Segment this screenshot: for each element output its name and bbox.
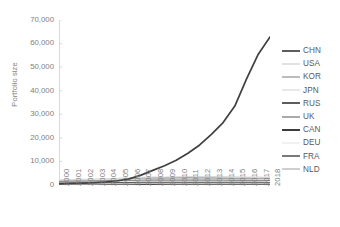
legend-item-uk[interactable]: UK [282,110,340,123]
legend-swatch-icon [282,139,300,147]
y-axis-tick-label: 20,000 [8,134,54,142]
legend-item-can[interactable]: CAN [282,123,340,136]
y-axis-tick-label: 10,000 [8,157,54,165]
legend-label: CHN [303,46,321,55]
legend-swatch-icon [282,60,300,68]
legend-item-fra[interactable]: FRA [282,150,340,163]
legend-item-chn[interactable]: CHN [282,44,340,57]
legend-swatch-icon [282,126,300,134]
legend-label: DEU [303,138,321,147]
legend-swatch-icon [282,47,300,55]
x-axis-tick-label: 2006 [133,169,142,186]
legend-swatch-icon [282,113,300,121]
y-axis-tick-labels: 70,00060,00050,00040,00030,00020,00010,0… [8,0,54,227]
plot-area [59,20,270,185]
x-axis-tick-label: 2007 [144,169,153,186]
x-axis-tick-label: 2014 [227,169,236,186]
y-axis-tick-label: 40,000 [8,87,54,95]
series-line-chn [59,37,270,184]
legend-swatch-icon [282,73,300,81]
legend-item-rus[interactable]: RUS [282,97,340,110]
legend-label: KOR [303,72,321,81]
x-axis-tick-label: 2005 [121,169,130,186]
y-axis-tick-label: 0 [8,181,54,189]
legend-item-jpn[interactable]: JPN [282,84,340,97]
x-axis-tick-labels: 2000200120022003200420052006200720082009… [59,186,270,227]
legend-swatch-icon [282,86,300,94]
x-axis-tick-label: 2009 [168,169,177,186]
y-axis-tick-label: 30,000 [8,110,54,118]
legend-swatch-icon [282,165,300,173]
x-axis-tick-label: 2013 [215,169,224,186]
legend-label: CAN [303,125,321,134]
x-axis-tick-label: 2001 [74,169,83,186]
legend-item-usa[interactable]: USA [282,57,340,70]
legend-item-deu[interactable]: DEU [282,136,340,149]
legend-swatch-icon [282,152,300,160]
legend-swatch-icon [282,99,300,107]
x-axis-tick-label: 2017 [262,169,271,186]
x-axis-tick-label: 2016 [250,169,259,186]
x-axis-tick-label: 2010 [180,169,189,186]
legend-label: USA [303,59,320,68]
y-axis-tick-label: 60,000 [8,39,54,47]
x-axis-tick-label: 2011 [191,169,200,186]
x-axis-tick-label: 2004 [109,169,118,186]
chart-figure: Portfolio size 70,00060,00050,00040,0003… [0,0,340,227]
x-axis-tick-label: 2012 [203,169,212,186]
legend-label: RUS [303,99,321,108]
y-axis-tick-label: 70,000 [8,16,54,24]
x-axis-tick-label: 2015 [238,169,247,186]
legend: CHNUSAKORJPNRUSUKCANDEUFRANLD [282,44,340,176]
legend-item-kor[interactable]: KOR [282,70,340,83]
y-axis-tick-label: 50,000 [8,63,54,71]
x-axis-tick-label: 2002 [86,169,95,186]
legend-label: FRA [303,152,320,161]
x-axis-tick-label: 2008 [156,169,165,186]
x-axis-tick-label: 2000 [62,169,71,186]
legend-label: NLD [303,165,320,174]
series-canvas [59,20,270,185]
legend-item-nld[interactable]: NLD [282,163,340,176]
legend-label: JPN [303,86,319,95]
x-axis-tick-label: 2003 [98,169,107,186]
legend-label: UK [303,112,315,121]
